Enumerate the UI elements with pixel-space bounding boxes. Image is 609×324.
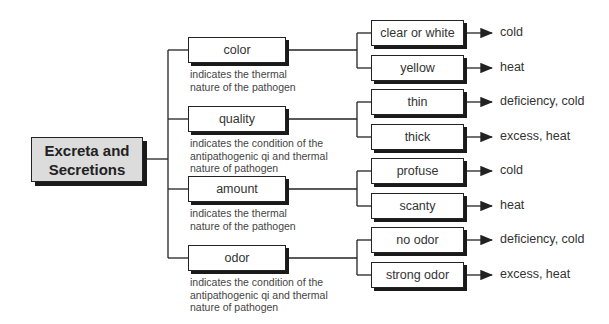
root-label-line2: Secretions <box>49 160 126 179</box>
desc-line: antipathogenic qi and thermal <box>190 150 360 163</box>
leaf-thick: thick <box>371 124 464 150</box>
category-color: color <box>188 37 286 63</box>
result-excess-heat: excess, heat <box>500 129 570 143</box>
leaf-label: strong odor <box>386 268 449 282</box>
desc-line: antipathogenic qi and thermal <box>190 289 360 302</box>
desc-line: nature of the pathogen <box>190 81 360 94</box>
desc-line: nature of pathogen <box>190 162 360 175</box>
leaf-label: thin <box>407 95 427 109</box>
leaf-yellow: yellow <box>371 55 464 81</box>
result-excess-heat: excess, heat <box>500 267 570 281</box>
category-label: quality <box>219 112 255 126</box>
root-label-line1: Excreta and <box>44 141 129 160</box>
result-deficiency-cold: deficiency, cold <box>500 94 585 108</box>
leaf-thin: thin <box>371 89 464 115</box>
category-amount: amount <box>188 176 286 202</box>
desc-line: indicates the thermal <box>190 68 360 81</box>
result-heat: heat <box>500 198 524 212</box>
leaf-strong-odor: strong odor <box>371 262 464 288</box>
leaf-label: profuse <box>397 164 439 178</box>
leaf-clear-or-white: clear or white <box>371 20 464 46</box>
leaf-profuse: profuse <box>371 158 464 184</box>
category-label: color <box>223 43 250 57</box>
category-desc-odor: indicates the condition of the antipatho… <box>190 276 360 314</box>
result-deficiency-cold: deficiency, cold <box>500 232 585 246</box>
desc-line: indicates the condition of the <box>190 137 360 150</box>
leaf-scanty: scanty <box>371 193 464 219</box>
leaf-label: scanty <box>399 199 435 213</box>
desc-line: indicates the thermal <box>190 207 360 220</box>
root-node: Excreta and Secretions <box>31 137 143 182</box>
category-desc-quality: indicates the condition of the antipatho… <box>190 137 360 175</box>
desc-line: indicates the condition of the <box>190 276 360 289</box>
leaf-label: yellow <box>400 61 435 75</box>
leaf-label: no odor <box>396 233 438 247</box>
category-desc-color: indicates the thermal nature of the path… <box>190 68 360 93</box>
result-cold: cold <box>500 25 523 39</box>
category-odor: odor <box>188 245 286 271</box>
leaf-no-odor: no odor <box>371 227 464 253</box>
desc-line: nature of the pathogen <box>190 220 360 233</box>
result-heat: heat <box>500 60 524 74</box>
category-quality: quality <box>188 106 286 132</box>
category-label: amount <box>216 182 258 196</box>
desc-line: nature of pathogen <box>190 301 360 314</box>
leaf-label: thick <box>405 130 431 144</box>
category-label: odor <box>224 251 249 265</box>
leaf-label: clear or white <box>380 26 454 40</box>
result-cold: cold <box>500 163 523 177</box>
category-desc-amount: indicates the thermal nature of the path… <box>190 207 360 232</box>
